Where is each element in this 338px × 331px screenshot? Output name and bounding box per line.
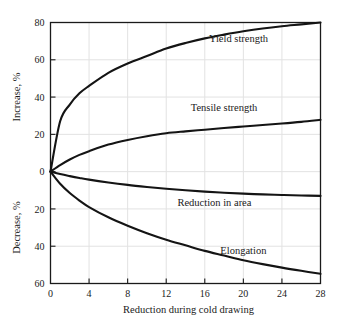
series-annotation: Reduction in area [177,197,251,208]
series-curve-elongation [51,172,321,274]
x-axis-tick-label: 8 [125,288,130,299]
y-axis-tick-label: 60 [35,278,45,289]
x-axis-title: Reduction during cold drawing [123,304,255,315]
y-axis-tick-label: 60 [35,54,45,65]
y-axis-tick-label: 40 [35,92,45,103]
series-annotation: Yield strength [209,33,269,44]
y-axis-tick-label: 20 [35,129,45,140]
x-axis-tick-label: 0 [48,288,53,299]
x-axis-tick-label: 28 [316,288,326,299]
series-curve-reduction-in-area [51,172,321,196]
y-axis-title-lower: Decrease, % [11,201,22,254]
x-axis-tick-label: 24 [277,288,287,299]
series-curve-tensile-strength [51,120,321,172]
x-axis-tick-label: 4 [87,288,92,299]
y-axis-tick-label: 40 [35,241,45,252]
chart-plot-area: 8060402002040600481216202428Reduction du… [0,0,338,331]
chart-figure: 8060402002040600481216202428Reduction du… [0,0,338,331]
x-axis-tick-label: 12 [161,288,171,299]
y-axis-tick-label: 0 [40,166,45,177]
x-axis-tick-label: 16 [200,288,210,299]
y-axis-title-upper: Increase, % [11,72,22,121]
series-annotation: Tensile strength [191,102,258,113]
x-axis-tick-label: 20 [238,288,248,299]
y-axis-tick-label: 80 [35,17,45,28]
series-annotation: Elongation [220,245,267,256]
y-axis-tick-label: 20 [35,204,45,215]
